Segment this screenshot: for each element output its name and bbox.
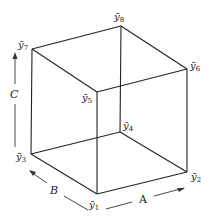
edge-y4-y8 [120, 26, 121, 132]
axis-a-line-left [106, 202, 132, 209]
axis-b-line-lower [64, 196, 88, 210]
axis-a-label: A [138, 193, 148, 206]
axis-b-label: B [49, 184, 58, 197]
edge-y3-y7 [31, 49, 32, 154]
vertex-label-y8: ȳ8 [113, 11, 124, 24]
axis-c-arrowhead-icon [13, 52, 18, 59]
vertex-labels: ȳ1 ȳ2 ȳ3 ȳ4 ȳ5 ȳ6 ȳ7 ȳ8 [15, 11, 201, 212]
axis-a: A [106, 188, 185, 209]
edge-y5-y7 [32, 49, 97, 92]
edge-y1-y3 [31, 154, 97, 194]
cube-diagram: ȳ1 ȳ2 ȳ3 ȳ4 ȳ5 ȳ6 ȳ7 ȳ8 A B C [0, 0, 209, 220]
vertex-label-y4: ȳ4 [122, 120, 134, 133]
edge-y7-y8 [32, 26, 121, 49]
edge-y5-y6 [97, 69, 187, 92]
vertex-label-y6: ȳ6 [189, 60, 201, 73]
edge-y6-y8 [121, 26, 187, 69]
vertex-label-y3: ȳ3 [15, 151, 26, 164]
vertex-label-y2: ȳ2 [190, 171, 201, 184]
axis-c-label: C [10, 88, 19, 101]
cube-edges [31, 26, 187, 194]
edge-y2-y4 [120, 132, 187, 172]
edge-y3-y4 [31, 132, 120, 154]
vertex-label-y5: ȳ5 [81, 92, 92, 105]
axis-c: C [10, 52, 19, 147]
vertex-label-y7: ȳ7 [17, 39, 28, 52]
axis-a-arrowhead-icon [177, 188, 185, 192]
vertex-label-y1: ȳ1 [88, 199, 99, 212]
axis-b: B [29, 170, 88, 210]
